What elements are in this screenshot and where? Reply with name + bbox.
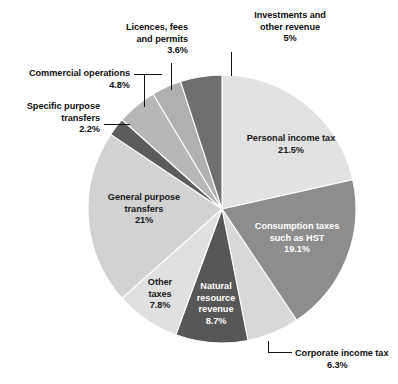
slice-value-general-purpose-transfers: 21% <box>92 215 196 227</box>
leader-line-commercial-operations-h <box>134 74 162 75</box>
slice-label-line1: Commercial operations <box>29 68 130 78</box>
leader-line-specific-purpose-transfers <box>104 124 130 125</box>
slice-value-corporate-income-tax: 6.3% <box>295 360 395 372</box>
slice-label-line2: transfers <box>125 204 164 214</box>
slice-label-line1: Corporate income tax <box>295 348 388 358</box>
slice-label-specific-purpose-transfers: Specific purpose transfers 2.2% <box>8 101 100 136</box>
slice-label-line2: other revenue <box>260 22 320 32</box>
slice-label-natural-resource-revenue: Natural resource revenue 8.7% <box>185 281 247 327</box>
slice-value-consumption-taxes: 19.1% <box>245 244 349 256</box>
slice-label-investments-and-other-revenue: Investments and other revenue 5% <box>230 10 350 45</box>
leader-line-commercial-operations-v <box>144 74 145 107</box>
slice-label-line1: Natural <box>200 281 231 291</box>
slice-label-line1: Personal income tax <box>247 133 335 143</box>
slice-label-other-taxes: Other taxes 7.8% <box>135 277 185 312</box>
leader-line-corporate-income-tax-v <box>268 341 269 353</box>
slice-label-line1: Consumption taxes <box>255 221 339 231</box>
leader-line-licences-fees-and-permits <box>171 63 172 90</box>
pie-chart: Investments and other revenue 5% Licence… <box>0 0 398 384</box>
leader-line-corporate-income-tax-h <box>268 352 292 353</box>
slice-label-line1: General purpose <box>108 192 180 202</box>
slice-label-corporate-income-tax: Corporate income tax 6.3% <box>295 348 395 371</box>
slice-value-other-taxes: 7.8% <box>135 300 185 312</box>
slice-value-specific-purpose-transfers: 2.2% <box>8 124 100 136</box>
slice-label-personal-income-tax: Personal income tax 21.5% <box>233 133 349 156</box>
slice-label-line2: resource <box>197 293 235 303</box>
slice-label-line2: and permits <box>136 34 188 44</box>
slice-label-line1: Specific purpose <box>27 101 100 111</box>
slice-label-line2: taxes <box>148 289 171 299</box>
slice-label-line3: revenue <box>199 304 234 314</box>
slice-label-line2: transfers <box>61 113 100 123</box>
slice-label-line1: Licences, fees <box>126 22 188 32</box>
slice-label-general-purpose-transfers: General purpose transfers 21% <box>92 192 196 227</box>
slice-label-line2: such as HST <box>270 233 325 243</box>
slice-value-personal-income-tax: 21.5% <box>233 145 349 157</box>
slice-label-commercial-operations: Commercial operations 4.8% <box>8 68 130 91</box>
slice-label-consumption-taxes: Consumption taxes such as HST 19.1% <box>245 221 349 256</box>
leader-line-investments-and-other-revenue <box>231 52 232 76</box>
slice-value-natural-resource-revenue: 8.7% <box>185 316 247 328</box>
slice-value-investments-and-other-revenue: 5% <box>230 33 350 45</box>
slice-value-licences-fees-and-permits: 3.6% <box>100 45 188 57</box>
slice-value-commercial-operations: 4.8% <box>8 80 130 92</box>
slice-label-line1: Other <box>148 277 172 287</box>
slice-label-licences-fees-and-permits: Licences, fees and permits 3.6% <box>100 22 188 57</box>
slice-label-line1: Investments and <box>254 10 326 20</box>
